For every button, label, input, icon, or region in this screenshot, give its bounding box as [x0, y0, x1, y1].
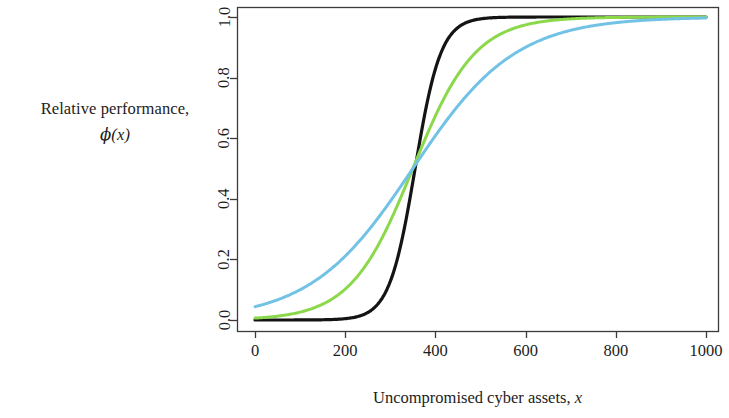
y-tick-label: 0.4 [215, 188, 234, 209]
plot-area: 02004006008001000 0.00.20.40.60.81.0 [0, 0, 729, 418]
y-tick-labels: 0.00.20.40.60.81.0 [215, 7, 234, 331]
y-tick-label: 1.0 [215, 7, 234, 28]
y-tick-marks [230, 18, 237, 321]
x-tick-label: 1000 [690, 341, 723, 360]
data-series-lines [255, 17, 706, 320]
x-tick-labels: 02004006008001000 [251, 341, 723, 360]
y-tick-label: 0.0 [215, 310, 234, 331]
x-tick-label: 600 [513, 341, 538, 360]
x-tick-label: 200 [333, 341, 358, 360]
y-tick-label: 0.6 [215, 128, 234, 149]
x-tick-label: 0 [251, 341, 259, 360]
x-tick-label: 400 [423, 341, 448, 360]
series-line-shallow-logistic [255, 18, 706, 307]
x-tick-label: 800 [603, 341, 628, 360]
chart-figure: Relative performance, ϕ(x) Uncompromised… [0, 0, 729, 418]
y-tick-label: 0.8 [215, 67, 234, 88]
y-tick-label: 0.2 [215, 249, 234, 270]
series-line-medium-logistic [255, 17, 706, 318]
